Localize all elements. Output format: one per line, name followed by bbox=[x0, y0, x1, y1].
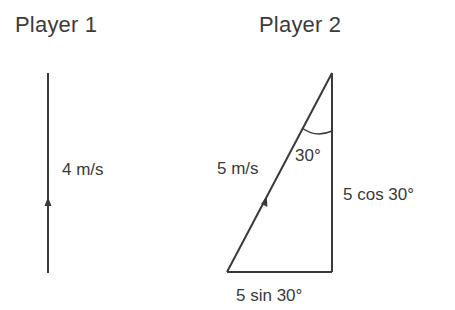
angle-arc bbox=[303, 129, 332, 134]
arrowhead-up-icon bbox=[45, 197, 52, 206]
diagram-canvas bbox=[0, 0, 455, 310]
angle-label: 30° bbox=[295, 146, 321, 166]
vertical-component-label: 5 cos 30° bbox=[343, 185, 414, 205]
horizontal-component-label: 5 sin 30° bbox=[236, 286, 302, 306]
player2-speed-label: 5 m/s bbox=[217, 159, 259, 179]
player1-speed-label: 4 m/s bbox=[62, 160, 104, 180]
player1-velocity-vector bbox=[45, 73, 52, 273]
